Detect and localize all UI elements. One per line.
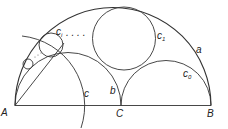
label-A: A	[0, 107, 8, 118]
semicircle-c0	[121, 61, 211, 106]
label-ci: ci	[56, 26, 63, 38]
label-c0: c0	[183, 68, 192, 80]
label-B: B	[207, 108, 214, 119]
label-c1: c1	[157, 30, 165, 42]
tangent-line	[15, 43, 64, 106]
label-C: C	[116, 108, 124, 119]
arbelos-diagram: A C B a b c c1 c0 ci . . . .	[0, 0, 228, 129]
arc-c	[22, 36, 85, 128]
label-c: c	[84, 88, 89, 99]
label-b: b	[110, 85, 116, 96]
ellipsis-dots: . . . .	[66, 27, 85, 38]
circle-c1	[93, 7, 156, 70]
dots-lower	[35, 53, 42, 58]
label-a: a	[196, 44, 202, 55]
